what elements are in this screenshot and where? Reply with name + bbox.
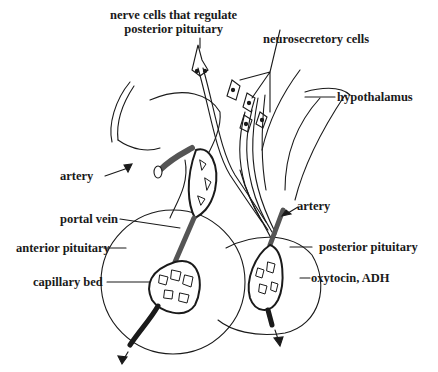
label-hypothalamus: hypothalamus bbox=[337, 90, 413, 104]
label-nerve-cells: nerve cells that regulate posterior pitu… bbox=[110, 8, 237, 36]
diagram-drawing bbox=[0, 0, 438, 372]
capillary-bed-anterior bbox=[118, 261, 200, 364]
label-posterior-pituitary: posterior pituitary bbox=[319, 240, 418, 254]
leader-lines bbox=[104, 30, 335, 282]
hypothalamus-outline bbox=[111, 82, 350, 200]
label-portal-vein: portal vein bbox=[60, 212, 118, 226]
label-artery-left: artery bbox=[60, 169, 93, 183]
label-nerve-cells-line1: nerve cells that regulate bbox=[110, 8, 237, 22]
capillary-bed-posterior bbox=[249, 210, 283, 346]
label-neurosecretory-cells: neurosecretory cells bbox=[263, 32, 369, 46]
label-anterior-pituitary: anterior pituitary bbox=[16, 241, 110, 255]
label-oxytocin-adh: oxytocin, ADH bbox=[311, 271, 389, 285]
label-nerve-cells-line2: posterior pituitary bbox=[110, 22, 237, 36]
label-artery-right: artery bbox=[297, 199, 330, 213]
label-capillary-bed: capillary bed bbox=[33, 275, 103, 289]
portal-system bbox=[154, 148, 216, 262]
pituitary-diagram: nerve cells that regulate posterior pitu… bbox=[0, 0, 438, 372]
